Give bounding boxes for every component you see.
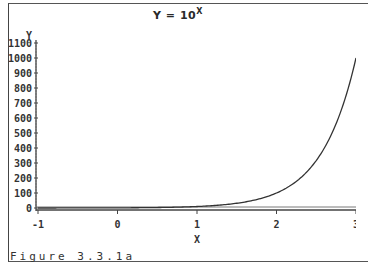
y-tick-label: 1000: [8, 53, 32, 64]
y-tick-label: 500: [14, 128, 32, 139]
y-tick-label: 200: [14, 173, 32, 184]
y-tick-label: 300: [14, 158, 32, 169]
y-axis-label: Y: [26, 30, 32, 41]
y-tick-label: 100: [14, 188, 32, 199]
figure-caption: Figure 3.3.1a: [10, 250, 135, 263]
x-tick-label: 3: [353, 219, 356, 230]
y-tick-label: 0: [26, 203, 32, 214]
y-tick-label: 400: [14, 143, 32, 154]
y-tick-label: 600: [14, 113, 32, 124]
y-tick-label: 900: [14, 68, 32, 79]
y-tick-label: 700: [14, 98, 32, 109]
x-tick-label: 2: [273, 219, 279, 230]
series-line-10-pow-x: [38, 58, 356, 208]
x-axis-label: X: [194, 234, 200, 245]
x-tick-label: 1: [194, 219, 200, 230]
y-tick-label: 800: [14, 83, 32, 94]
x-tick-label: -1: [32, 219, 44, 230]
x-tick-label: 0: [114, 219, 120, 230]
